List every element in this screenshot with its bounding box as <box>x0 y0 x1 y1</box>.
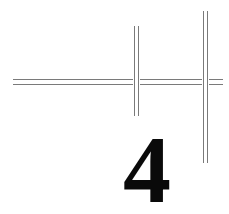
vertical-double-line-left <box>135 26 139 116</box>
double-line-ornament <box>0 0 229 214</box>
vertical-double-line-right <box>204 11 208 163</box>
chapter-number: 4 <box>122 122 172 214</box>
chapter-ornament: 4 <box>0 0 229 214</box>
horizontal-double-line <box>13 80 223 85</box>
